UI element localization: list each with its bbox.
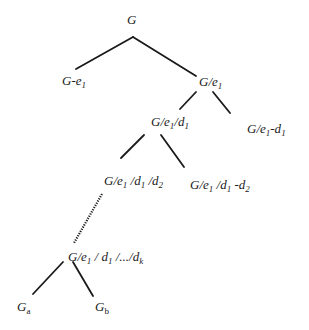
node-label: G-e (62, 73, 82, 88)
node-label: G (127, 12, 136, 27)
node-label: -d (270, 121, 281, 136)
node-g-contract-e1-d1: G/e1/d1 (151, 115, 189, 131)
node-subscript: 1 (82, 80, 87, 90)
node-g-contract-d1-d2: G/e1 /d1 /d2 (104, 174, 163, 190)
edge-dk-ga (33, 262, 63, 294)
edge-dk-gb (73, 262, 93, 296)
node-label: /d (127, 173, 140, 188)
node-g-b: Gb (95, 300, 109, 316)
node-label: G/e (247, 121, 266, 136)
node-label: G (95, 299, 104, 314)
node-label: -d (231, 177, 245, 192)
edge-d1-contract-d2 (121, 135, 144, 158)
node-subscript: 1 (184, 121, 189, 131)
node-g-e1-minus-d1: G/e1-d1 (247, 122, 286, 138)
node-subscript: 2 (245, 184, 250, 194)
node-label: G/e (104, 173, 123, 188)
edge-root-contract-e1 (133, 37, 196, 76)
node-label: /d (145, 173, 158, 188)
node-subscript: k (139, 256, 143, 266)
node-g-minus-e1: G-e1 (62, 74, 86, 90)
node-subscript: a (26, 306, 30, 316)
node-g-d1-minus-d2: G/e1 /d1 -d2 (190, 178, 250, 194)
node-label: /.../d (112, 249, 139, 264)
node-g-contract-dk: G/e1 / d1 /.../dk (68, 250, 143, 266)
node-label: G/e (199, 74, 218, 89)
node-subscript: 1 (218, 81, 223, 91)
node-subscript: b (104, 306, 109, 316)
node-g-a: Ga (17, 300, 30, 316)
edge-d1-minus-d2 (161, 135, 184, 167)
tree-edges (0, 0, 309, 330)
node-label: G/e (190, 177, 209, 192)
edge-e1-contract-d1 (180, 92, 196, 109)
node-label: G (17, 299, 26, 314)
node-label: / d (91, 249, 108, 264)
node-subscript: 1 (281, 128, 286, 138)
node-label: /d (213, 177, 226, 192)
edge-root-minus-e1 (76, 37, 133, 69)
node-label: G/e (151, 114, 170, 129)
node-subscript: 2 (159, 180, 164, 190)
node-root-g: G (127, 13, 136, 26)
edge-e1-minus-d1 (213, 92, 230, 113)
node-label: G/e (68, 249, 87, 264)
node-label: /d (174, 114, 184, 129)
node-g-contract-e1: G/e1 (199, 75, 222, 91)
edge-d2-contract-dk-dotted (74, 194, 102, 243)
